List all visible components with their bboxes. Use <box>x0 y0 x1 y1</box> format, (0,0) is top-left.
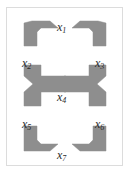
label-x3-sub: 3 <box>100 62 104 71</box>
label-x2: x2 <box>22 57 31 69</box>
label-x7-sub: 7 <box>62 154 66 163</box>
label-x4: x4 <box>57 91 66 103</box>
label-x3: x3 <box>95 57 104 69</box>
label-x1-sub: 1 <box>62 26 66 35</box>
shape-top-left-bracket <box>24 21 58 46</box>
label-x1: x1 <box>57 21 66 33</box>
label-x5: x5 <box>22 118 31 130</box>
label-x7: x7 <box>57 149 66 161</box>
shape-mid-right-bowtie <box>64 65 106 106</box>
label-x6-sub: 6 <box>100 123 104 132</box>
shape-top-right-bracket <box>72 21 106 46</box>
label-x6: x6 <box>95 118 104 130</box>
label-x4-sub: 4 <box>62 96 66 105</box>
label-x5-sub: 5 <box>27 123 31 132</box>
figure-container: x1 x2 x3 x4 x5 x6 x7 <box>0 0 130 174</box>
label-x2-sub: 2 <box>27 62 31 71</box>
